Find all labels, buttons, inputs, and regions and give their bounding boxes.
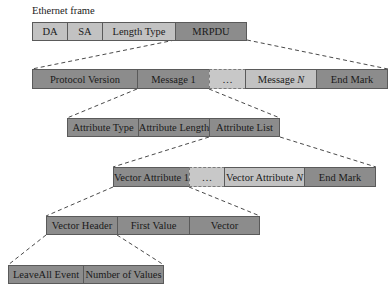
field-length-type: Length Type: [102, 22, 176, 41]
field-protocol-version: Protocol Version: [32, 69, 138, 89]
field-attribute-type: Attribute Type: [67, 118, 139, 137]
field-message-ellipsis: …: [209, 69, 246, 89]
field-attribute-length: Attribute Length: [138, 118, 210, 137]
field-vector-attribute-1: Vector Attribute 1: [113, 167, 190, 187]
field-da: DA: [32, 22, 68, 41]
field-message-n: Message N: [245, 69, 317, 89]
vector-attribute-n-label: Vector Attribute: [226, 172, 293, 183]
field-message-1: Message 1: [137, 69, 210, 89]
field-leaveall-event: LeaveAll Event: [8, 265, 84, 284]
index-n: N: [297, 74, 304, 85]
field-end-mark: End Mark: [316, 69, 388, 89]
index-n: N: [296, 172, 303, 183]
field-vector-header: Vector Header: [46, 216, 118, 235]
field-vector-attribute-n: Vector Attribute N: [224, 167, 305, 187]
field-attribute-list: Attribute List: [209, 118, 280, 137]
field-sa: SA: [67, 22, 103, 41]
field-attribute-end-mark: End Mark: [304, 167, 376, 187]
field-first-value: First Value: [117, 216, 190, 235]
field-mrpdu: MRPDU: [175, 22, 247, 41]
field-number-of-values: Number of Values: [83, 265, 164, 284]
field-vector: Vector: [189, 216, 260, 235]
expansion-connectors: [0, 0, 391, 294]
field-vector-attribute-ellipsis: …: [189, 167, 225, 187]
message-n-label: Message: [258, 74, 295, 85]
